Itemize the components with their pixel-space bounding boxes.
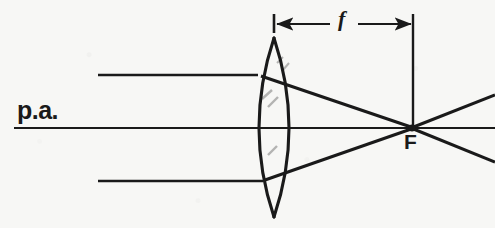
- principal-axis-label: p.a.: [17, 98, 58, 123]
- refracted-ray-lower-arrowhead: [330, 151, 348, 157]
- diagram-canvas: [0, 0, 495, 228]
- refracted-ray-upper-arrowhead: [330, 100, 348, 106]
- diverging-ray-upper-arrowhead: [447, 107, 465, 114]
- optics-ray-diagram: p.a. F f: [0, 0, 495, 228]
- diverging-ray-lower-arrowhead: [447, 143, 465, 150]
- focal-length-dimension: [274, 14, 413, 128]
- focal-point-label: F: [404, 131, 417, 152]
- focal-length-label: f: [338, 8, 345, 30]
